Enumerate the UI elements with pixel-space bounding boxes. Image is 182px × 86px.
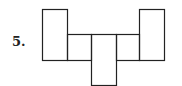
rect-middle-right [117,35,140,61]
rect-middle-left [68,35,92,61]
rect-left-tall [43,10,68,61]
rect-right-tall [140,10,165,61]
net-figure [0,0,182,86]
rect-center-bottom [92,35,117,86]
